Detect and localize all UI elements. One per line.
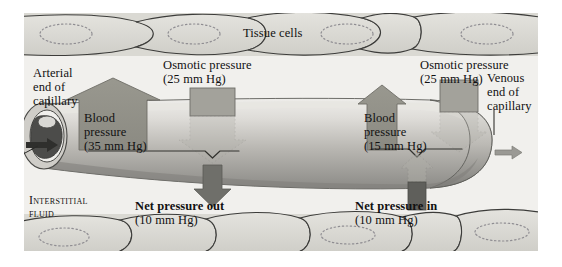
capillary-exchange-figure: Tissue cells Arterial end of capillary O… xyxy=(0,0,562,267)
label-net-pressure-in-value: (10 mm Hg) xyxy=(355,213,418,227)
label-tissue-cells: Tissue cells xyxy=(243,26,302,40)
label-net-pressure-out-value: (10 mm Hg) xyxy=(135,213,198,227)
label-blood-pressure-arterial-value: (35 mm Hg) xyxy=(84,139,147,153)
label-blood-pressure-venous: Blood pressure xyxy=(364,111,406,139)
label-osmotic-pressure-arterial-value: (25 mm Hg) xyxy=(163,72,226,86)
label-net-pressure-out: Net pressure out xyxy=(135,199,224,213)
capillary-arterial-cross-section xyxy=(12,103,67,169)
label-osmotic-pressure-venous-value: (25 mm Hg) xyxy=(420,72,483,86)
label-interstitial-fluid: Interstitial fluid xyxy=(29,194,109,221)
label-arterial-end-of-capillary: Arterial end of capillary xyxy=(33,66,78,108)
label-blood-pressure-venous-value: (15 mm Hg) xyxy=(364,139,427,153)
label-osmotic-pressure-venous: Osmotic pressure xyxy=(420,58,509,72)
label-venous-end-of-capillary: Venous end of capillary xyxy=(487,71,532,113)
label-net-pressure-in: Net pressure in xyxy=(355,199,437,213)
label-blood-pressure-arterial: Blood pressure xyxy=(84,111,126,139)
label-osmotic-pressure-arterial: Osmotic pressure xyxy=(163,58,252,72)
